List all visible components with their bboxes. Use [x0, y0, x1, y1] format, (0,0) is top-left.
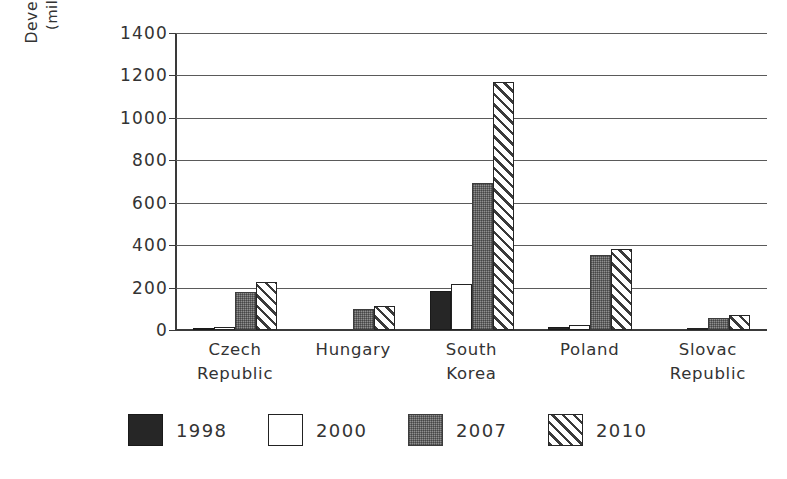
bar: [374, 306, 395, 330]
y-axis-title: Development Assistance (millions of US d…: [14, 0, 70, 91]
y-axis-tickmark: [169, 75, 176, 76]
bar: [708, 318, 729, 330]
legend-swatch-2010: [548, 414, 583, 446]
y-axis-title-line-2: (millions of US dollars): [43, 0, 62, 30]
bar: [729, 315, 750, 330]
gridline: [176, 118, 767, 119]
chart-legend: 1998200020072010: [128, 414, 658, 456]
legend-label: 2007: [456, 420, 507, 441]
legend-item: 2007: [408, 414, 507, 446]
x-axis-category-label: Hungary: [294, 338, 412, 362]
legend-label: 1998: [176, 420, 227, 441]
bar: [235, 292, 256, 330]
y-axis-tickmark: [169, 288, 176, 289]
gridline: [176, 160, 767, 161]
bar: [687, 328, 708, 330]
gridline: [176, 33, 767, 34]
y-axis-tickmark: [169, 203, 176, 204]
legend-label: 2000: [316, 420, 367, 441]
y-axis-tick-label: 200: [78, 278, 168, 298]
legend-label: 2010: [596, 420, 647, 441]
bar: [548, 327, 569, 330]
bar: [256, 282, 277, 330]
bar: [353, 309, 374, 330]
bar-chart: Development Assistance (millions of US d…: [0, 0, 787, 479]
y-axis-tick-label: 1200: [78, 65, 168, 85]
y-axis-tick-label: 400: [78, 235, 168, 255]
bar: [611, 249, 632, 330]
legend-swatch-2000: [268, 414, 303, 446]
y-axis-tickmark: [169, 160, 176, 161]
bar: [451, 284, 472, 330]
bar: [493, 82, 514, 330]
x-axis-category-label: Poland: [531, 338, 649, 362]
y-axis-tick-label: 1000: [78, 108, 168, 128]
y-axis-tickmark: [169, 245, 176, 246]
legend-swatch-2007: [408, 414, 443, 446]
bar: [214, 327, 235, 330]
y-axis-tick-labels: 0200400600800100012001400: [78, 0, 168, 479]
legend-swatch-1998: [128, 414, 163, 446]
bar: [569, 325, 590, 330]
y-axis-title-line-1: Development Assistance: [23, 0, 43, 44]
x-axis-category-label: South Korea: [412, 338, 530, 386]
y-axis-tickmark: [169, 33, 176, 34]
y-axis-tick-label: 600: [78, 193, 168, 213]
x-axis-category-label: Czech Republic: [176, 338, 294, 386]
y-axis-tick-label: 800: [78, 150, 168, 170]
legend-item: 2000: [268, 414, 367, 446]
y-axis-tickmark: [169, 330, 176, 331]
legend-item: 1998: [128, 414, 227, 446]
y-axis-tick-label: 0: [78, 320, 168, 340]
gridline: [176, 75, 767, 76]
y-axis-tick-label: 1400: [78, 23, 168, 43]
x-axis-category-labels: Czech RepublicHungarySouth KoreaPolandSl…: [176, 338, 767, 398]
bar: [430, 291, 451, 330]
plot-area: [176, 33, 767, 330]
x-axis-category-label: Slovac Republic: [649, 338, 767, 386]
y-axis-tickmark: [169, 118, 176, 119]
legend-item: 2010: [548, 414, 647, 446]
y-axis-line: [175, 33, 177, 331]
bar: [193, 328, 214, 330]
bar: [472, 183, 493, 330]
bar: [590, 255, 611, 330]
